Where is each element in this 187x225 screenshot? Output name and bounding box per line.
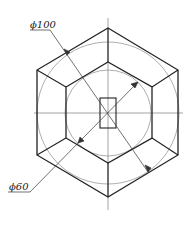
inner-diameter-label: ϕ60	[9, 182, 29, 192]
dimension-phi60	[8, 82, 138, 192]
inner-hexagon	[66, 62, 152, 163]
outer-diameter-label: ϕ100	[30, 20, 56, 30]
bevel-edges	[37, 28, 178, 197]
technical-drawing: ϕ100 ϕ60	[0, 0, 187, 225]
